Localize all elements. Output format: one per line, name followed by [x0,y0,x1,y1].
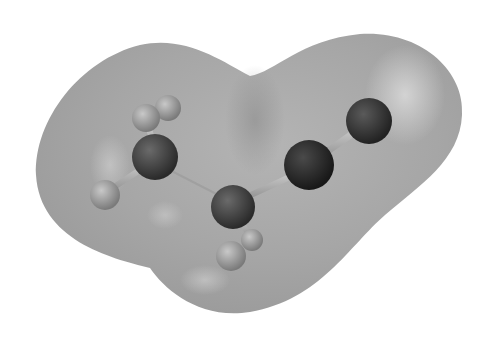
electron-density-surface [36,34,462,314]
atom-h3 [90,180,120,210]
atom-h1 [132,104,160,132]
atom-n [346,98,392,144]
atom-c2 [211,185,255,229]
molecule-figure [0,0,494,349]
surface-highlight-center [147,201,183,229]
atom-c3 [284,140,334,190]
atom-h5 [241,229,263,251]
atom-c1 [132,134,178,180]
surface-highlight-bottom [180,265,230,295]
atom-h4 [216,241,246,271]
surface-shade-mid [225,65,285,175]
